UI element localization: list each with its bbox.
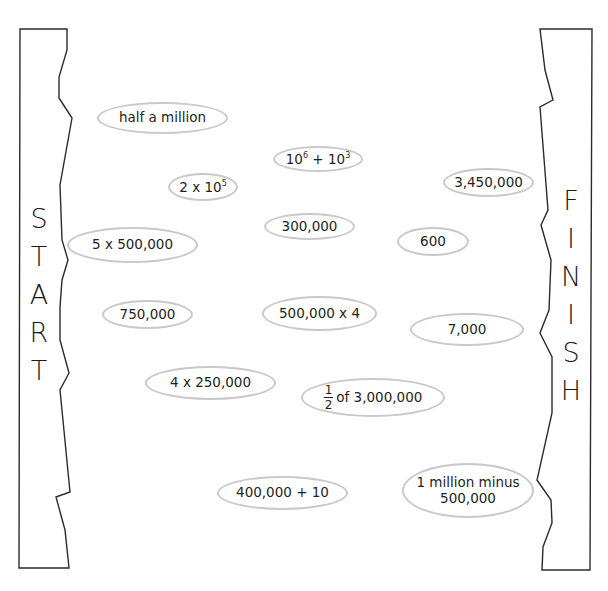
- base: 2 x 10: [179, 179, 221, 195]
- fraction: 1 2: [324, 384, 334, 411]
- oval-600[interactable]: 600: [397, 227, 469, 256]
- exponent: 5: [222, 179, 227, 188]
- base: 10: [286, 151, 303, 167]
- start-letter: R: [30, 314, 49, 352]
- oval-text: 5 x 500,000: [92, 237, 173, 253]
- oval-5x500000[interactable]: 5 x 500,000: [67, 227, 198, 263]
- finish-letter: F: [563, 182, 579, 220]
- base: 10: [328, 151, 345, 167]
- finish-label: F I N I S H: [556, 182, 586, 410]
- oval-half-of-3000000[interactable]: 1 2 of 3,000,000: [301, 378, 445, 417]
- oval-text: half a million: [119, 110, 206, 126]
- oval-text: 400,000 + 10: [236, 485, 329, 501]
- oval-text: 106 + 103: [286, 151, 350, 168]
- oval-two-times-ten5[interactable]: 2 x 105: [168, 173, 238, 201]
- finish-letter: S: [562, 334, 579, 372]
- number-maze-board: S T A R T F I N I S H half a million 106…: [0, 0, 608, 591]
- oval-1million-minus-500000[interactable]: 1 million minus 500,000: [402, 463, 534, 518]
- oval-text: 500,000 x 4: [279, 306, 360, 322]
- oval-text: 2 x 105: [179, 179, 226, 196]
- oval-text: 600: [420, 234, 446, 250]
- oval-3450000[interactable]: 3,450,000: [443, 168, 534, 197]
- oval-500000x4[interactable]: 500,000 x 4: [262, 296, 377, 331]
- oval-ten6-plus-ten3[interactable]: 106 + 103: [273, 146, 363, 172]
- fraction-denominator: 2: [325, 398, 333, 411]
- oval-text-line1: 1 million minus: [416, 475, 519, 491]
- start-label: S T A R T: [24, 200, 54, 390]
- oval-300000[interactable]: 300,000: [264, 213, 355, 240]
- oval-text: 3,450,000: [454, 175, 523, 191]
- finish-letter: N: [561, 258, 581, 296]
- oval-4x250000[interactable]: 4 x 250,000: [145, 366, 276, 400]
- finish-letter: H: [561, 372, 581, 410]
- oval-text-line2: 500,000: [440, 491, 496, 507]
- operator: +: [308, 151, 328, 167]
- exponent: 3: [345, 151, 350, 160]
- oval-half-a-million[interactable]: half a million: [97, 102, 228, 134]
- oval-400000plus10[interactable]: 400,000 + 10: [217, 476, 348, 510]
- oval-text: 300,000: [282, 219, 338, 235]
- oval-750000[interactable]: 750,000: [102, 300, 193, 329]
- oval-text: 7,000: [448, 322, 487, 338]
- oval-text: 4 x 250,000: [170, 375, 251, 391]
- start-letter: S: [30, 200, 47, 238]
- finish-letter: I: [567, 220, 575, 258]
- start-letter: A: [30, 276, 48, 314]
- oval-7000[interactable]: 7,000: [410, 313, 524, 346]
- start-letter: T: [31, 238, 48, 276]
- finish-letter: I: [567, 296, 575, 334]
- fraction-text: of 3,000,000: [336, 390, 422, 406]
- oval-text: 750,000: [120, 307, 176, 323]
- start-letter: T: [31, 352, 48, 390]
- oval-text: 1 2 of 3,000,000: [324, 384, 423, 411]
- fraction-numerator: 1: [324, 384, 334, 398]
